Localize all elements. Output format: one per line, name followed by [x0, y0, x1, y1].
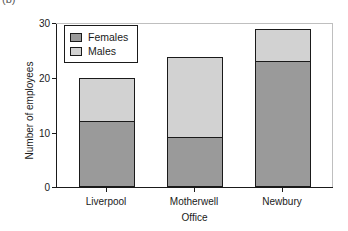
y-tick-label-30: 30 [28, 19, 50, 29]
legend-label-males: Males [88, 46, 116, 57]
bar-group-liverpool[interactable] [79, 78, 135, 187]
bar-group-motherwell[interactable] [167, 57, 223, 187]
x-tick-label-newbury: Newbury [237, 196, 327, 207]
panel-caption: (b) [2, 0, 15, 5]
bar-segment-newbury-males[interactable] [255, 29, 311, 62]
y-tick-label-20: 20 [28, 74, 50, 84]
bar-chart-figure: (b) Number of employees 0 10 20 30 Liver [0, 0, 348, 231]
y-tick-label-0: 0 [28, 183, 50, 193]
legend-entry-males: Males [70, 44, 128, 58]
x-tick-label-motherwell: Motherwell [149, 196, 239, 207]
bar-segment-liverpool-males[interactable] [79, 78, 135, 122]
x-axis-title: Office [56, 212, 333, 223]
chart-legend: Females Males [64, 25, 138, 63]
legend-swatch-females-icon [70, 33, 82, 42]
bar-segment-motherwell-males[interactable] [167, 57, 223, 139]
x-tick-mark-newbury [282, 188, 283, 192]
y-tick-label-10: 10 [28, 129, 50, 139]
bar-segment-liverpool-females[interactable] [79, 122, 135, 187]
bar-group-newbury[interactable] [255, 29, 311, 187]
legend-swatch-males-icon [70, 47, 82, 56]
x-tick-label-liverpool: Liverpool [61, 196, 151, 207]
bar-segment-newbury-females[interactable] [255, 62, 311, 187]
x-tick-mark-liverpool [106, 188, 107, 192]
x-tick-mark-motherwell [194, 188, 195, 192]
legend-entry-females: Females [70, 30, 128, 44]
legend-label-females: Females [88, 32, 128, 43]
y-axis-title: Number of employees [24, 31, 35, 191]
bar-segment-motherwell-females[interactable] [167, 138, 223, 187]
